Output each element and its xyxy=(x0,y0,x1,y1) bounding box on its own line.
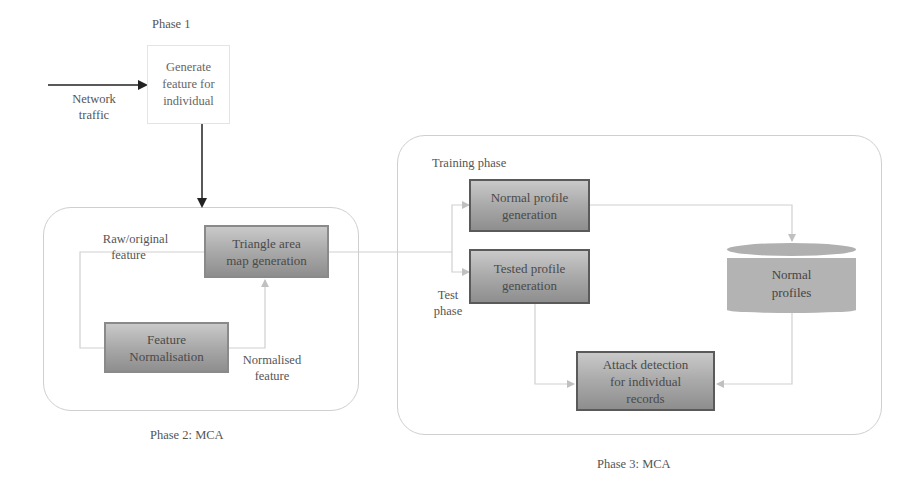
triangle-box-line1: Triangle area xyxy=(226,235,307,252)
raw-label-line1: Raw/original xyxy=(88,231,183,247)
training-phase-label: Training phase xyxy=(432,155,506,171)
normal-profile-line2: generation xyxy=(491,206,569,223)
raw-label-line2: feature xyxy=(74,247,183,263)
test-label-line2: phase xyxy=(428,303,468,319)
test-phase-label: Test phase xyxy=(428,287,468,319)
database-line2: profiles xyxy=(727,284,856,302)
phase3-caption: Phase 3: MCA xyxy=(597,456,671,472)
network-traffic-label-line1: Network xyxy=(64,91,124,107)
normal-profiles-database-label: Normal profiles xyxy=(727,266,856,302)
normalisation-box-line2: Normalisation xyxy=(129,348,203,365)
feature-normalisation-box: Feature Normalisation xyxy=(104,322,229,373)
tested-profile-line1: Tested profile xyxy=(494,260,566,277)
generate-feature-line2: feature for xyxy=(162,76,214,93)
triangle-box-line2: map generation xyxy=(226,252,307,269)
attack-line2: for individual xyxy=(603,373,689,390)
generate-feature-box: Generate feature for individual xyxy=(147,45,230,124)
generate-feature-line3: individual xyxy=(162,93,214,110)
attack-line3: records xyxy=(603,390,689,407)
database-line1: Normal xyxy=(727,266,856,284)
attack-line1: Attack detection xyxy=(603,356,689,373)
triangle-area-map-box: Triangle area map generation xyxy=(204,225,329,278)
phase1-title: Phase 1 xyxy=(152,16,191,32)
tested-profile-line2: generation xyxy=(494,277,566,294)
phase2-caption: Phase 2: MCA xyxy=(150,427,224,443)
normal-profile-generation-box: Normal profile generation xyxy=(469,179,590,232)
raw-original-feature-label: Raw/original feature xyxy=(88,231,183,263)
test-label-line1: Test xyxy=(428,287,468,303)
network-traffic-label: Network traffic xyxy=(64,91,124,123)
generate-feature-line1: Generate xyxy=(162,59,214,76)
tested-profile-generation-box: Tested profile generation xyxy=(469,249,590,304)
network-traffic-label-line2: traffic xyxy=(64,107,124,123)
normalised-label-line2: feature xyxy=(232,368,312,384)
normalised-feature-label: Normalised feature xyxy=(232,352,312,384)
attack-detection-box: Attack detection for individual records xyxy=(576,351,715,411)
normalised-label-line1: Normalised xyxy=(232,352,312,368)
normal-profile-line1: Normal profile xyxy=(491,189,569,206)
normalisation-box-line1: Feature xyxy=(129,331,203,348)
